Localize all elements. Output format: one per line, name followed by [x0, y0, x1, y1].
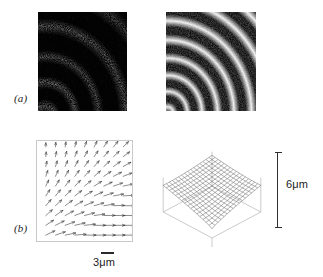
vector-arrow-shaft	[55, 180, 59, 186]
vector-arrow-shaft	[104, 182, 112, 186]
vector-arrow-shaft	[85, 191, 93, 196]
vector-arrow-shaft	[75, 181, 80, 187]
vector-arrow-shaft	[65, 211, 73, 215]
vector-arrow-shaft	[46, 190, 50, 196]
scale-label-vertical: 6μm	[286, 178, 308, 190]
vector-arrow-shaft	[65, 190, 71, 196]
speckle-right-canvas	[166, 12, 256, 111]
vector-arrow-shaft	[65, 201, 72, 206]
vector-arrow-shaft	[123, 195, 132, 196]
mesh-line-col	[175, 164, 224, 196]
displacement-vector-field-plot	[36, 140, 133, 242]
mesh-line-row	[209, 157, 258, 187]
surface-canvas	[146, 118, 278, 270]
mesh-line-col	[172, 162, 221, 193]
vector-arrow-shaft	[55, 200, 61, 206]
vector-arrow-shaft	[123, 152, 129, 157]
vector-arrow-shaft	[114, 162, 121, 167]
vector-arrow-shaft	[46, 210, 52, 216]
speckle-left-canvas	[38, 12, 127, 111]
vector-arrow-shaft	[104, 161, 110, 166]
speckle-interferogram-right	[166, 12, 256, 111]
mesh-line-row	[200, 164, 249, 196]
mesh-line-col	[194, 175, 243, 211]
panel-label-b: (b)	[14, 222, 27, 234]
vector-arrow-shaft	[75, 201, 83, 205]
vector-field-canvas	[37, 141, 132, 241]
vector-arrow-shaft	[75, 191, 82, 196]
mesh-line-col	[209, 184, 258, 226]
mesh-line-col	[169, 159, 218, 190]
vector-arrow-shaft	[46, 231, 55, 235]
vector-arrow-shaft	[55, 221, 64, 225]
vector-arrow-shaft	[123, 162, 130, 166]
mesh-line-col	[206, 182, 255, 222]
figure-root: (a)	[0, 0, 323, 277]
speckle-interferogram-left	[38, 12, 127, 111]
scale-bar-vertical	[277, 152, 278, 228]
vector-arrow-shaft	[85, 202, 94, 206]
vector-arrow-shaft	[46, 200, 51, 206]
mesh-line-row	[203, 162, 252, 193]
vector-arrow-shaft	[104, 172, 111, 177]
vector-arrow-shaft	[94, 192, 102, 196]
scale-label-horizontal: 3μm	[93, 256, 115, 268]
vector-arrow-shaft	[85, 181, 91, 186]
vector-arrow-shaft	[114, 172, 122, 176]
out-of-plane-surface-plot	[146, 118, 278, 270]
mesh-line-row	[206, 159, 255, 190]
vector-arrow-shaft	[94, 181, 101, 186]
vector-arrow-shaft	[55, 210, 62, 215]
mesh-line-col	[166, 157, 215, 187]
vector-arrow-group	[45, 141, 132, 236]
mesh-line-row	[166, 184, 215, 226]
box-floor-front-edges	[163, 212, 261, 238]
panel-label-a: (a)	[14, 92, 27, 104]
mesh-line-row	[212, 155, 261, 185]
mesh-line-row	[182, 175, 231, 211]
scale-bar-horizontal	[101, 252, 114, 254]
vector-arrow-shaft	[46, 220, 54, 225]
mesh-line-col	[163, 155, 212, 185]
vector-arrow-shaft	[94, 171, 100, 176]
